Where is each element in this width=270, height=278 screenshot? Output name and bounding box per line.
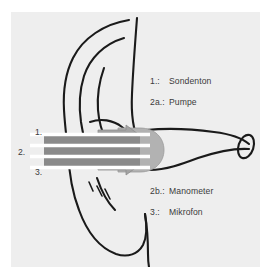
probe-tube-bands bbox=[44, 136, 140, 166]
legend-item-mikrofon: 3.: Mikrofon bbox=[150, 207, 213, 217]
legend-item-sondenton: 1.: Sondenton bbox=[150, 76, 211, 86]
legend-key-3: 3.: bbox=[150, 207, 169, 217]
legend-key-1: 1.: bbox=[150, 76, 169, 86]
legend-bottom: 2b.: Manometer 3.: Mikrofon bbox=[150, 186, 213, 228]
legend-item-manometer: 2b.: Manometer bbox=[150, 186, 213, 196]
probe-tube-band-2 bbox=[44, 147, 140, 155]
legend-item-pumpe: 2a.: Pumpe bbox=[150, 97, 211, 107]
callout-label-1: 1. bbox=[35, 127, 42, 137]
legend-key-2b: 2b.: bbox=[150, 186, 169, 196]
probe-tube-band-3 bbox=[44, 158, 140, 166]
callout-label-2: 2. bbox=[18, 147, 25, 157]
legend-text-manometer: Manometer bbox=[169, 186, 213, 196]
legend-text-pumpe: Pumpe bbox=[169, 97, 197, 107]
ear-anatomy-diagram bbox=[0, 0, 270, 278]
legend-text-mikrofon: Mikrofon bbox=[169, 207, 203, 217]
legend-top: 1.: Sondenton 2a.: Pumpe bbox=[150, 76, 211, 118]
legend-text-sondenton: Sondenton bbox=[169, 76, 211, 86]
figure-root: 1. 2. 3. 1.: Sondenton 2a.: Pumpe 2b.: M… bbox=[0, 0, 270, 278]
legend-key-2a: 2a.: bbox=[150, 97, 169, 107]
callout-label-3: 3. bbox=[35, 167, 42, 177]
probe-tube-band-1 bbox=[44, 136, 140, 144]
